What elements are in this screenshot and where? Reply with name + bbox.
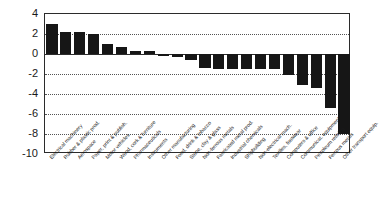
plot-area [44,13,350,153]
bar [116,47,127,54]
bar [46,24,57,54]
bar [283,54,294,75]
y-tick-label: -8 [28,128,38,139]
y-tick-label: -10 [22,148,38,159]
plot-inner [45,14,349,152]
bars-series [45,14,349,152]
y-tick-label: 4 [32,8,38,19]
y-tick-label: -4 [28,88,38,99]
bar [172,54,183,57]
y-axis: 420-2-4-6-8-10 [0,0,42,221]
bar [338,54,349,134]
bar [311,54,322,88]
bar [60,32,71,55]
y-tick-label: -2 [28,68,38,79]
y-tick-label: 2 [32,28,38,39]
bar [130,51,141,54]
bar [255,54,266,69]
bar [102,44,113,55]
bar [158,54,169,56]
bar [213,54,224,69]
bar [297,54,308,85]
y-tick-label: -6 [28,108,38,119]
bar [241,54,252,69]
bar [88,34,99,54]
bar [325,54,336,108]
bar [269,54,280,69]
bar [227,54,238,69]
bar [185,54,196,60]
bar [144,51,155,54]
bar [199,54,210,68]
bar [74,32,85,54]
y-tick-label: 0 [32,48,38,59]
